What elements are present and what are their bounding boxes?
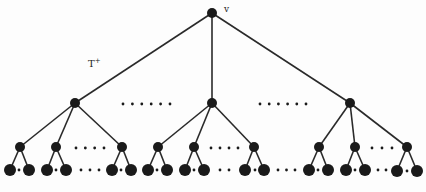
- ellipsis-dot: [93, 147, 96, 150]
- tree-edge: [350, 103, 407, 147]
- ellipsis-dot: [80, 169, 83, 172]
- tree-nodes: [4, 8, 423, 177]
- tree-label: T+: [88, 57, 101, 69]
- tree-node: [106, 164, 118, 176]
- ellipsis-dot: [169, 103, 172, 106]
- ellipsis-dot: [377, 169, 380, 172]
- tree-edge: [319, 103, 350, 147]
- tree-node: [117, 142, 127, 152]
- ellipsis-dot: [98, 169, 101, 172]
- ellipsis-dot: [159, 103, 162, 106]
- ellipsis-dot: [406, 170, 409, 173]
- ellipsis-dot: [285, 169, 288, 172]
- tree-edge: [212, 13, 350, 103]
- ellipsis-dot: [371, 147, 374, 150]
- tree-edge: [212, 103, 254, 147]
- ellipsis-dot: [156, 169, 159, 172]
- tree-node: [345, 98, 355, 108]
- tree-node: [303, 164, 315, 176]
- ellipsis-dot: [219, 147, 222, 150]
- tree-graph: [0, 0, 426, 192]
- ellipsis-dot: [286, 103, 289, 106]
- ellipsis-dot: [131, 103, 134, 106]
- ellipsis-dot: [277, 103, 280, 106]
- ellipsis-dot: [103, 147, 106, 150]
- ellipsis-dot: [18, 169, 21, 172]
- root-node: [207, 8, 217, 18]
- tree-node: [41, 164, 53, 176]
- tree-edge: [350, 103, 355, 147]
- tree-node: [51, 142, 61, 152]
- ellipsis-dot: [228, 169, 231, 172]
- tree-node: [15, 142, 25, 152]
- tree-node: [198, 164, 210, 176]
- ellipsis-dot: [294, 169, 297, 172]
- ellipsis-dot: [89, 169, 92, 172]
- ellipsis-dot: [391, 147, 394, 150]
- ellipsis-dot: [237, 147, 240, 150]
- tree-edge: [20, 103, 75, 147]
- ellipsis-dot: [75, 147, 78, 150]
- ellipsis-dot: [354, 169, 357, 172]
- ellipsis-dot: [277, 169, 280, 172]
- tree-node: [350, 142, 360, 152]
- tree-node: [60, 164, 72, 176]
- ellipsis-dot: [381, 147, 384, 150]
- ellipsis-dot: [150, 103, 153, 106]
- ellipsis-dot: [305, 103, 308, 106]
- tree-node: [125, 164, 137, 176]
- tree-node: [258, 164, 270, 176]
- ellipsis-dot: [84, 147, 87, 150]
- ellipsis-dot: [268, 103, 271, 106]
- tree-node: [153, 142, 163, 152]
- tree-node: [340, 164, 352, 176]
- tree-node: [391, 165, 403, 177]
- tree-node: [359, 164, 371, 176]
- tree-node: [4, 164, 16, 176]
- tree-node: [189, 142, 199, 152]
- ellipsis-dot: [254, 169, 257, 172]
- ellipsis-dot: [219, 169, 222, 172]
- tree-edge: [75, 103, 122, 147]
- tree-node: [23, 164, 35, 176]
- tree-node: [161, 164, 173, 176]
- ellipsis-dot: [295, 103, 298, 106]
- tree-label-superscript: +: [95, 57, 101, 65]
- tree-node: [402, 142, 412, 152]
- tree-diagram: v T+: [0, 0, 426, 192]
- ellipsis-dot: [193, 169, 196, 172]
- ellipsis-dot: [120, 169, 123, 172]
- ellipsis-dot: [228, 147, 231, 150]
- tree-node: [249, 142, 259, 152]
- root-node-label: v: [224, 4, 229, 14]
- tree-node: [314, 142, 324, 152]
- ellipsis-dot: [385, 169, 388, 172]
- tree-node: [411, 165, 423, 177]
- tree-node: [142, 164, 154, 176]
- ellipsis-dot: [140, 103, 143, 106]
- ellipsis-dot: [210, 147, 213, 150]
- ellipsis-dot: [122, 103, 125, 106]
- tree-node: [322, 164, 334, 176]
- tree-node: [70, 98, 80, 108]
- tree-node: [207, 98, 217, 108]
- tree-node: [179, 164, 191, 176]
- ellipsis-dot: [55, 169, 58, 172]
- tree-node: [239, 164, 251, 176]
- tree-label-base: T: [88, 58, 95, 69]
- ellipsis-dot: [259, 103, 262, 106]
- tree-edge: [158, 103, 212, 147]
- ellipsis-dot: [317, 169, 320, 172]
